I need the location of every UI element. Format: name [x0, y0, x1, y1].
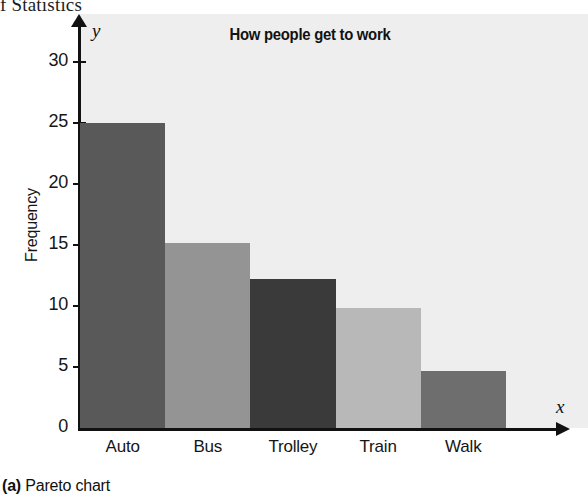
x-category-label: Auto	[80, 437, 165, 457]
x-category-label: Bus	[165, 437, 250, 457]
bar	[250, 279, 335, 428]
bar	[336, 308, 421, 428]
bar	[80, 123, 165, 428]
y-tick-label: 10	[28, 294, 68, 315]
bar	[421, 371, 506, 428]
pareto-chart-figure: How people get to work y x Frequency 051…	[0, 0, 588, 503]
y-tick-label: 20	[28, 172, 68, 193]
x-axis-line	[78, 428, 557, 431]
x-category-label: Walk	[421, 437, 506, 457]
bar-series	[80, 14, 557, 428]
y-tick-label: 5	[28, 355, 68, 376]
y-tick-label: 25	[28, 111, 68, 132]
figure-caption: (a) Pareto chart	[2, 477, 110, 495]
x-axis-arrow-icon	[556, 422, 570, 436]
y-tick-label: 15	[28, 233, 68, 254]
x-axis-variable-label: x	[556, 396, 564, 418]
y-axis-title: Frequency	[23, 145, 41, 305]
y-tick-label: 0	[28, 416, 68, 437]
caption-marker: (a)	[2, 477, 21, 494]
x-category-label: Train	[336, 437, 421, 457]
bar	[165, 243, 250, 428]
x-category-label: Trolley	[250, 437, 335, 457]
y-tick-label: 30	[28, 50, 68, 71]
caption-text: Pareto chart	[25, 477, 110, 494]
